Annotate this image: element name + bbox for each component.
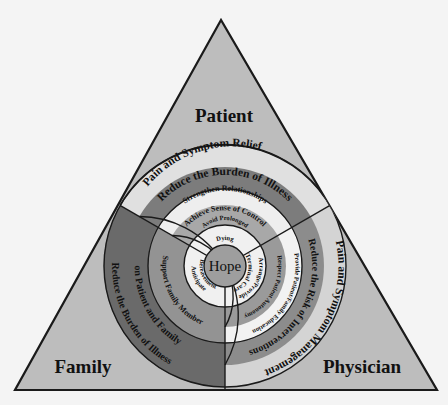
hope-label: Hope — [209, 258, 242, 274]
corner-label-family: Family — [55, 356, 112, 377]
corner-label-physician: Physician — [323, 356, 402, 377]
palliative-care-diagram: Hope Patient Family Physician Pain and S… — [0, 0, 448, 405]
corner-label-patient: Patient — [195, 105, 254, 126]
